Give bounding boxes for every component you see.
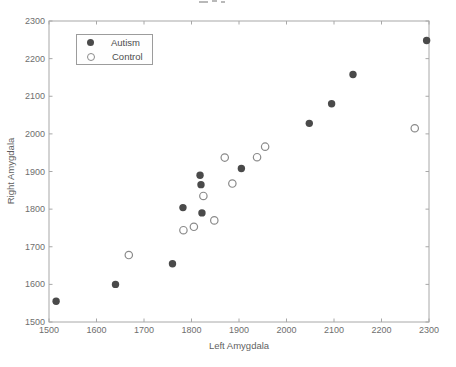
x-tick-label: 2000 — [276, 325, 296, 335]
cropped-title-fragment — [199, 0, 239, 3]
x-tick-label: 2200 — [371, 325, 391, 335]
y-tick-label: 2200 — [25, 54, 45, 64]
data-point-control — [411, 125, 418, 132]
data-point-autism — [179, 204, 186, 211]
scatter-figure: 1500160017001800190020002100220023001500… — [0, 0, 456, 367]
data-point-control — [253, 154, 260, 161]
data-point-control — [125, 251, 132, 258]
data-point-control — [190, 223, 197, 230]
y-axis-label: Right Amygdala — [5, 137, 16, 204]
data-point-control — [261, 143, 268, 150]
filled-circle-icon — [87, 39, 94, 46]
y-tick-label: 1500 — [25, 317, 45, 327]
data-point-autism — [238, 165, 245, 172]
y-tick-label: 2000 — [25, 129, 45, 139]
data-point-control — [229, 180, 236, 187]
plot-border — [49, 21, 429, 322]
data-point-control — [221, 154, 228, 161]
open-circle-icon — [87, 53, 95, 61]
legend-row-control: Control — [77, 50, 152, 63]
data-point-autism — [169, 260, 176, 267]
data-point-control — [211, 217, 218, 224]
data-point-autism — [112, 281, 119, 288]
data-point-control — [180, 226, 187, 233]
data-point-autism — [423, 37, 430, 44]
data-point-autism — [349, 71, 356, 78]
data-point-autism — [196, 172, 203, 179]
legend-row-autism: Autism — [77, 36, 152, 49]
x-tick-label: 2300 — [419, 325, 439, 335]
x-tick-label: 1900 — [229, 325, 249, 335]
legend-label-control: Control — [112, 51, 143, 62]
legend-box: Autism Control — [76, 34, 153, 65]
data-point-autism — [198, 209, 205, 216]
data-point-autism — [306, 120, 313, 127]
plot-svg: 1500160017001800190020002100220023001500… — [0, 0, 456, 367]
y-tick-label: 1800 — [25, 204, 45, 214]
y-tick-label: 2300 — [25, 16, 45, 26]
x-tick-label: 1700 — [134, 325, 154, 335]
x-tick-label: 1800 — [181, 325, 201, 335]
y-tick-label: 1600 — [25, 279, 45, 289]
x-tick-label: 2100 — [324, 325, 344, 335]
data-point-autism — [52, 298, 59, 305]
x-axis-label: Left Amygdala — [209, 340, 270, 351]
data-point-autism — [197, 181, 204, 188]
y-tick-label: 1900 — [25, 167, 45, 177]
legend-label-autism: Autism — [111, 37, 140, 48]
data-point-autism — [328, 100, 335, 107]
y-tick-label: 1700 — [25, 242, 45, 252]
x-tick-label: 1600 — [86, 325, 106, 335]
data-point-control — [200, 192, 207, 199]
points-layer — [52, 37, 430, 305]
y-tick-label: 2100 — [25, 91, 45, 101]
